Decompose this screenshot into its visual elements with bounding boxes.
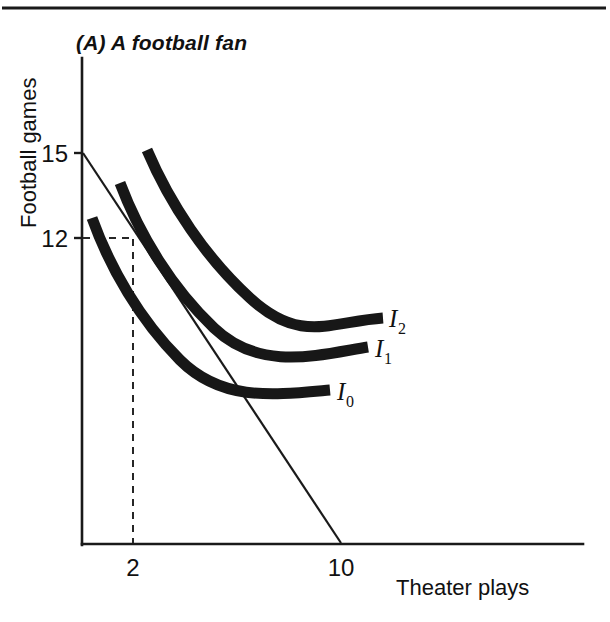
x-tick-label-2: 2	[126, 554, 139, 581]
curve-label-i0: I 0	[336, 378, 354, 410]
y-tick-label-15: 15	[41, 140, 68, 167]
budget-constraint-line	[83, 153, 341, 543]
curve-label-i0-sub: 0	[346, 393, 354, 410]
curve-label-i1: I 1	[374, 335, 392, 367]
curve-label-i1-sub: 1	[384, 350, 392, 367]
y-tick-label-12: 12	[41, 225, 68, 252]
panel-title: (A) A football fan	[76, 31, 247, 54]
indifference-curve-chart: (A) A football fan Football games Theate…	[0, 0, 610, 622]
y-axis-title: Football games	[16, 78, 41, 228]
curve-label-i2-sub: 2	[398, 320, 406, 337]
indifference-curve-i0	[92, 218, 330, 394]
x-tick-label-10: 10	[328, 554, 355, 581]
curve-label-i2: I 2	[388, 305, 406, 337]
figure-container: (A) A football fan Football games Theate…	[0, 0, 610, 622]
x-axis-title: Theater plays	[396, 575, 529, 600]
